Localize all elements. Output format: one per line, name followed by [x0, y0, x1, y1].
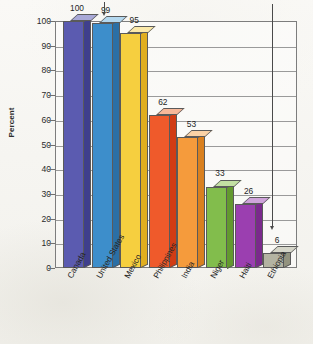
x-axis-labels: CanadaUnited StatesMexicoPhilippinesIndi… — [0, 0, 313, 344]
x-label-mexico: Mexico — [122, 253, 143, 280]
x-label-united-states: United States — [94, 233, 126, 280]
x-label-haiti: Haiti — [237, 261, 254, 280]
annotation-pointer-united-states-line — [104, 2, 105, 12]
bar-value-label: 95 — [114, 15, 154, 25]
x-label-india: India — [179, 260, 196, 280]
bar-value-label: 62 — [143, 97, 183, 107]
x-label-niger: Niger — [208, 258, 226, 280]
bar-value-label: 33 — [200, 168, 240, 178]
annotation-pointer-ethiopia-arrowhead — [270, 226, 274, 230]
x-label-philippines: Philippines — [151, 241, 179, 280]
bar-value-label: 6 — [257, 235, 297, 245]
x-label-ethiopia: Ethiopia — [265, 249, 288, 279]
bar-value-label: 26 — [229, 186, 269, 196]
annotation-pointer-ethiopia-line — [272, 4, 273, 226]
chart-screenshot: and is much more likely to die in childb… — [0, 0, 313, 344]
annotation-pointer-united-states-arrowhead — [102, 12, 106, 16]
x-label-canada: Canada — [65, 250, 88, 280]
bar-value-label: 53 — [171, 119, 211, 129]
